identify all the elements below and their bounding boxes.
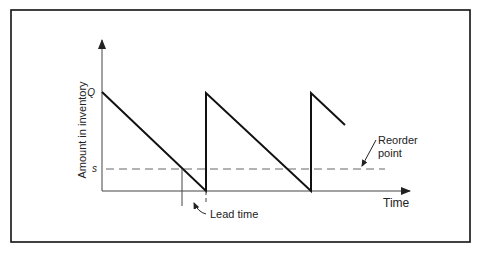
reorder-point-pointer [362,140,376,166]
y-axis-label: Amount in inventory [76,81,88,179]
reorder-point-label-line1: Reorder [378,134,418,146]
s-label: s [92,163,97,174]
lead-time-pointer [194,203,206,214]
inventory-sawtooth-line [102,92,345,191]
reorder-point-label-line2: point [378,147,402,159]
inventory-diagram: Amount in inventory Q s Time Reorder poi… [0,0,479,253]
x-axis-label: Time [383,196,410,210]
lead-time-label: Lead time [210,208,258,220]
q-label: Q [87,87,95,98]
